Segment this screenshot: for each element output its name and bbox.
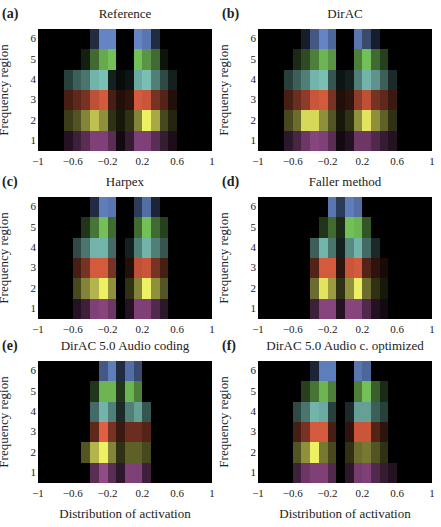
heatmap-cell xyxy=(195,442,204,462)
heatmap-cell xyxy=(151,299,160,319)
heatmap-cell xyxy=(362,238,371,258)
heatmap-cell xyxy=(284,131,293,151)
y-tick-label: 5 xyxy=(26,221,36,233)
y-tick-label: 5 xyxy=(246,221,256,233)
heatmap-cell xyxy=(116,70,125,90)
heatmap-cell xyxy=(195,217,204,237)
heatmap-cell xyxy=(406,278,415,298)
heatmap-cell xyxy=(423,70,432,90)
heatmap-cell xyxy=(362,278,371,298)
y-tick-label: 4 xyxy=(246,241,256,253)
heatmap-cell xyxy=(186,258,195,278)
heatmap-cell xyxy=(275,131,284,151)
heatmap-cell xyxy=(293,361,302,381)
heatmap-cell xyxy=(310,361,319,381)
x-axis-label: Distribution of activation xyxy=(258,506,432,522)
chart-panel-e: (e) DirAC 5.0 Audio coding Frequency reg… xyxy=(0,332,220,507)
heatmap-cell xyxy=(99,463,108,483)
heatmap-cell xyxy=(81,402,90,422)
heatmap-cell xyxy=(267,402,276,422)
heatmap-cell xyxy=(328,29,337,49)
heatmap-cell xyxy=(47,197,56,217)
y-tick-label: 6 xyxy=(246,200,256,212)
heatmap-cell xyxy=(55,463,64,483)
chart-panel-a: (a) Reference Frequency region 654321−1−… xyxy=(0,0,220,175)
heatmap-cell xyxy=(108,49,117,69)
heatmap-cell xyxy=(203,238,212,258)
heatmap-cell xyxy=(275,381,284,401)
heatmap-cell xyxy=(108,238,117,258)
heatmap-cell xyxy=(380,197,389,217)
heatmap-cell xyxy=(177,361,186,381)
heatmap-cell xyxy=(258,131,267,151)
heatmap-cell xyxy=(99,197,108,217)
heatmap-cell xyxy=(388,70,397,90)
heatmap-cell xyxy=(177,238,186,258)
heatmap-cell xyxy=(73,90,82,110)
panel-title: DirAC 5.0 Audio c. optimized xyxy=(258,338,432,354)
heatmap-cell xyxy=(362,197,371,217)
heatmap-cell xyxy=(284,110,293,130)
heatmap-cell xyxy=(267,381,276,401)
heatmap-cell xyxy=(301,442,310,462)
heatmap-cell xyxy=(90,70,99,90)
heatmap-cell xyxy=(38,238,47,258)
heatmap-cell xyxy=(47,381,56,401)
x-tick-label: 0.2 xyxy=(347,487,377,499)
heatmap-cell xyxy=(301,217,310,237)
heatmap-cell xyxy=(160,90,169,110)
heatmap-cell xyxy=(371,29,380,49)
chart-panel-f: (f) DirAC 5.0 Audio c. optimized Frequen… xyxy=(220,332,440,507)
heatmap-cell xyxy=(73,49,82,69)
heatmap-cell xyxy=(142,258,151,278)
heatmap-cell xyxy=(310,131,319,151)
heatmap-cell xyxy=(397,258,406,278)
heatmap-cell xyxy=(397,29,406,49)
heatmap-cell xyxy=(293,463,302,483)
heatmap-cell xyxy=(90,381,99,401)
heatmap-cell xyxy=(328,70,337,90)
heatmap-cell xyxy=(55,238,64,258)
heatmap-cell xyxy=(90,238,99,258)
heatmap-cell xyxy=(423,442,432,462)
panel-title: Faller method xyxy=(258,174,432,190)
heatmap-cell xyxy=(284,29,293,49)
heatmap-cell xyxy=(186,217,195,237)
heatmap-cell xyxy=(125,90,134,110)
heatmap-cell xyxy=(160,299,169,319)
heatmap-cell xyxy=(423,29,432,49)
heatmap-cell xyxy=(284,463,293,483)
heatmap-cell xyxy=(293,90,302,110)
x-tick-label: 0.6 xyxy=(382,155,412,167)
heatmap-cell xyxy=(354,110,363,130)
heatmap-cell xyxy=(177,442,186,462)
heatmap-cell xyxy=(310,463,319,483)
heatmap-cell xyxy=(310,217,319,237)
heatmap-cell xyxy=(362,49,371,69)
heatmap-cell xyxy=(388,422,397,442)
heatmap-cell xyxy=(415,29,424,49)
heatmap-cell xyxy=(90,90,99,110)
heatmap-cell xyxy=(284,381,293,401)
heatmap-cell xyxy=(267,361,276,381)
y-tick-label: 1 xyxy=(246,302,256,314)
heatmap-cell xyxy=(151,110,160,130)
heatmap-cell xyxy=(81,422,90,442)
heatmap-cell xyxy=(160,49,169,69)
heatmap-cell xyxy=(267,463,276,483)
heatmap-cell xyxy=(267,422,276,442)
heatmap-cell xyxy=(319,49,328,69)
heatmap-cell xyxy=(397,278,406,298)
heatmap-cell xyxy=(160,463,169,483)
heatmap-cell xyxy=(134,217,143,237)
heatmap-cell xyxy=(397,131,406,151)
heatmap-cell xyxy=(423,402,432,422)
heatmap-cell xyxy=(380,442,389,462)
heatmap-cell xyxy=(345,278,354,298)
heatmap-cell xyxy=(108,29,117,49)
heatmap-cell xyxy=(203,258,212,278)
heatmap-cell xyxy=(345,217,354,237)
y-tick-label: 4 xyxy=(26,73,36,85)
heatmap-cell xyxy=(423,238,432,258)
heatmap-cell xyxy=(73,217,82,237)
